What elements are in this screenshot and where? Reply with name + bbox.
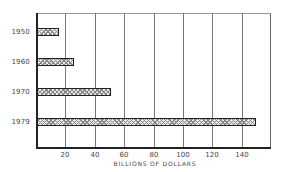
y-label-1979: 1979 — [0, 118, 30, 126]
x-tick-80: 80 — [144, 151, 164, 159]
x-axis — [36, 147, 271, 149]
bar-1979 — [37, 118, 256, 126]
gridline-60 — [124, 13, 125, 148]
x-tick-40: 40 — [85, 151, 105, 159]
gridline-20 — [65, 13, 66, 148]
x-tick-140: 140 — [232, 151, 252, 159]
gridline-100 — [183, 13, 184, 148]
gridline-120 — [212, 13, 213, 148]
bar-1970 — [37, 88, 111, 96]
gridline-140 — [242, 13, 243, 148]
y-label-1950: 1950 — [0, 28, 30, 36]
bar-1950 — [37, 28, 59, 36]
x-tick-60: 60 — [114, 151, 134, 159]
x-axis-title: BILLIONS OF DOLLARS — [100, 160, 210, 167]
y-label-1960: 1960 — [0, 58, 30, 66]
x-tick-120: 120 — [202, 151, 222, 159]
x-tick-20: 20 — [55, 151, 75, 159]
gridline-80 — [154, 13, 155, 148]
gridline-40 — [95, 13, 96, 148]
y-axis — [36, 13, 38, 149]
y-label-1970: 1970 — [0, 88, 30, 96]
bar-1960 — [37, 58, 74, 66]
bar-chart: 1950196019701979 20406080100120140 BILLI… — [0, 0, 283, 172]
x-tick-100: 100 — [173, 151, 193, 159]
